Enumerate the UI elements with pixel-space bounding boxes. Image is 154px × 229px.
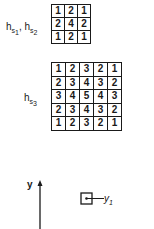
grid-cell: 2 <box>94 63 108 77</box>
grid-row: 1 2 1 <box>52 5 91 18</box>
kernel-label-hs3: hs3 <box>24 92 37 107</box>
grid-cell: 2 <box>52 76 66 90</box>
grid-cell: 3 <box>80 63 94 77</box>
grid-cell: 1 <box>52 117 66 131</box>
grid-cell: 1 <box>108 117 122 131</box>
grid-row: 2 3 4 3 2 <box>52 76 122 90</box>
grid-row: 1 2 3 2 1 <box>52 63 122 77</box>
grid-cell: 4 <box>80 103 94 117</box>
grid-row: 2 4 2 <box>52 18 91 31</box>
grid-cell: 4 <box>66 90 80 104</box>
grid-cell: 4 <box>80 76 94 90</box>
grid-cell: 2 <box>108 76 122 90</box>
grid-cell: 1 <box>52 31 65 44</box>
grid-row: 1 2 1 <box>52 31 91 44</box>
grid-cell: 3 <box>52 90 66 104</box>
grid-cell: 2 <box>94 117 108 131</box>
grid-cell: 2 <box>66 63 80 77</box>
grid-cell: 3 <box>66 103 80 117</box>
grid-cell: 2 <box>66 117 80 131</box>
sub-idx: 3 <box>33 100 37 107</box>
grid-row: 1 2 3 2 1 <box>52 117 122 131</box>
grid-cell: 2 <box>65 31 78 44</box>
grid-cell: 2 <box>52 18 65 31</box>
grid-cell: 4 <box>94 90 108 104</box>
grid-cell: 5 <box>80 90 94 104</box>
sub-idx: 2 <box>34 29 38 36</box>
kernel-label-hs1-hs2: hs1, hs2 <box>6 21 38 36</box>
unit-cell-icon <box>80 192 104 206</box>
grid-cell: 2 <box>78 18 91 31</box>
y-axis-arrow-icon <box>35 180 45 229</box>
unit-label-y1: y1 <box>104 193 113 206</box>
grid-cell: 3 <box>108 90 122 104</box>
grid-cell: 1 <box>52 5 65 18</box>
grid-cell: 2 <box>108 103 122 117</box>
axis-label-y: y <box>27 179 33 190</box>
grid-cell: 3 <box>94 76 108 90</box>
grid-cell: 1 <box>52 63 66 77</box>
grid-cell: 1 <box>78 31 91 44</box>
grid-cell: 3 <box>94 103 108 117</box>
grid-cell: 2 <box>65 5 78 18</box>
grid-cell: 1 <box>78 5 91 18</box>
kernel-grid-3x3: 1 2 1 2 4 2 1 2 1 <box>51 4 91 44</box>
grid-cell: 1 <box>108 63 122 77</box>
grid-cell: 4 <box>65 18 78 31</box>
grid-cell: 3 <box>66 76 80 90</box>
grid-row: 3 4 5 4 3 <box>52 90 122 104</box>
grid-cell: 3 <box>80 117 94 131</box>
kernel-grid-5x5: 1 2 3 2 1 2 3 4 3 2 3 4 5 4 3 2 3 4 3 2 … <box>51 62 122 131</box>
grid-cell: 2 <box>52 103 66 117</box>
sub-idx: 1 <box>109 199 113 206</box>
grid-row: 2 3 4 3 2 <box>52 103 122 117</box>
